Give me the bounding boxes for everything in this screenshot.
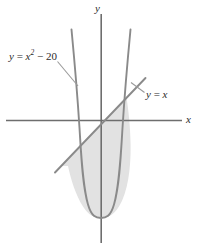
graph-canvas <box>0 0 201 248</box>
y-axis-label: y <box>95 3 100 14</box>
parabola-label-tail: − 20 <box>34 50 57 62</box>
parabola-label-equals: = <box>14 50 26 62</box>
line-equation-label: y = x <box>146 89 168 100</box>
line-label-equals: = <box>151 88 163 100</box>
x-axis-label: x <box>186 114 191 125</box>
math-figure: y = x2 − 20 y = x y x <box>0 0 201 248</box>
parabola-equation-label: y = x2 − 20 <box>9 49 57 62</box>
line-label-x: x <box>163 88 168 100</box>
